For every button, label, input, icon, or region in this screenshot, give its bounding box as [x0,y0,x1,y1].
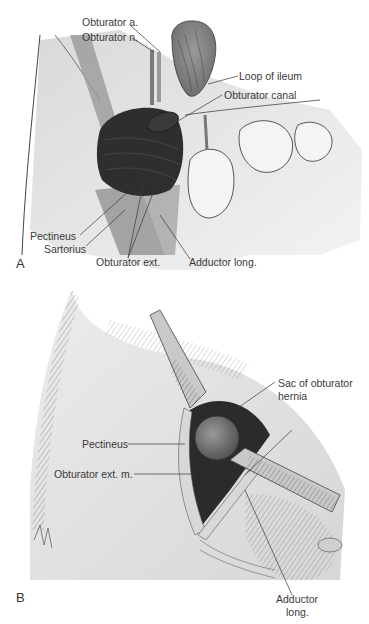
label-pectineus-a: Pectineus [30,230,76,242]
label-obturator-canal: Obturator canal [224,89,296,101]
panel-a: Obturator a. Obturator n. Loop of ileum … [0,0,369,290]
panel-letter-a: A [16,256,25,271]
label-sartorius: Sartorius [44,243,86,255]
label-pectineus-b: Pectineus [82,438,128,450]
anatomical-figure: Obturator a. Obturator n. Loop of ileum … [0,0,369,624]
label-adductor-long-b-line2: long. [286,606,309,618]
label-adductor-long-a: Adductor long. [189,256,257,268]
label-obturator-nerve: Obturator n. [82,31,138,43]
label-obturator-artery: Obturator a. [82,16,138,28]
label-obturator-ext-m: Obturator ext. m. [54,468,133,480]
label-adductor-long-b-line1: Adductor [276,593,318,605]
panel-b: Sac of obturator hernia Pectineus Obtura… [0,290,369,624]
panel-b-illustration [0,290,369,624]
label-sac-of-obturator-hernia-line2: hernia [278,390,307,402]
label-loop-of-ileum: Loop of ileum [239,70,302,82]
panel-letter-b: B [16,590,25,605]
label-sac-of-obturator-hernia-line1: Sac of obturator [278,377,353,389]
label-obturator-ext: Obturator ext. [96,256,160,268]
